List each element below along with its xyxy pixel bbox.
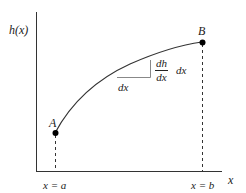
- point-a-label: A: [49, 117, 56, 129]
- point-a: [53, 130, 59, 136]
- x-equals-b-label: x = b: [191, 180, 214, 191]
- point-b: [200, 40, 206, 46]
- x-axis-label: x: [228, 174, 233, 186]
- rise-fraction: dh dx: [155, 58, 168, 83]
- graph-diagram: h(x) x A B x = a x = b dx dh dx dx: [0, 0, 246, 193]
- triangle-run-label: dx: [118, 82, 128, 93]
- curve-h-of-x: [55, 42, 202, 133]
- x-equals-a-label: x = a: [43, 180, 66, 191]
- point-b-label: B: [198, 25, 205, 37]
- rise-suffix-label: dx: [176, 65, 186, 76]
- rise-fraction-denominator: dx: [156, 71, 166, 83]
- y-axis-label: h(x): [9, 24, 28, 36]
- graph-canvas: [0, 0, 246, 193]
- rise-fraction-numerator: dh: [155, 58, 168, 71]
